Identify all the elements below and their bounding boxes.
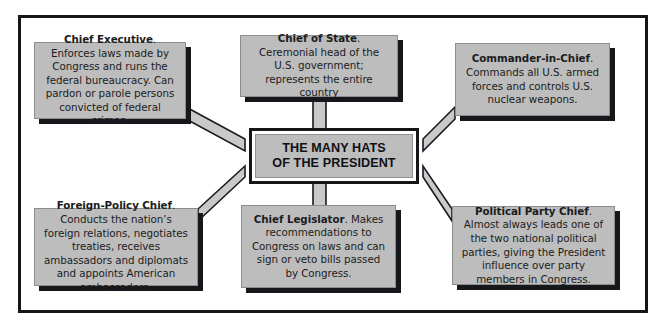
hat-box-foreign-policy-chief: Foreign-Policy Chief. Conducts the natio… <box>34 208 198 286</box>
connector-party-chief <box>423 166 452 221</box>
hat-box-text: Chief Executive. Enforces laws made by C… <box>42 33 178 128</box>
connector-chief-legislator <box>313 182 326 207</box>
hat-box-chief-of-state: Chief of State. Ceremonial head of the U… <box>240 35 398 97</box>
hat-box-text: Chief Legislator. Makes recommendations … <box>249 213 388 281</box>
center-title-box: THE MANY HATS OF THE PRESIDENT <box>249 128 419 184</box>
connector-foreign-policy <box>198 166 245 221</box>
hat-box-title: Foreign-Policy Chief <box>57 199 172 211</box>
hat-box-title: Chief of State <box>278 32 357 44</box>
connector-chief-executive <box>186 107 245 151</box>
connector-commander <box>423 107 455 151</box>
hat-box-chief-legislator: Chief Legislator. Makes recommendations … <box>241 205 396 288</box>
connector-chief-of-state <box>313 97 326 131</box>
hat-box-political-party-chief: Political Party Chief. Almost always lea… <box>452 206 615 285</box>
hat-box-title: Chief Legislator <box>254 213 345 225</box>
diagram-canvas: Chief Executive. Enforces laws made by C… <box>0 0 662 334</box>
center-title-text: THE MANY HATS OF THE PRESIDENT <box>272 141 395 172</box>
hat-box-title: Political Party Chief <box>475 205 589 217</box>
hat-box-body: . Conducts the nation’s foreign relation… <box>44 199 188 293</box>
center-title-plate: THE MANY HATS OF THE PRESIDENT <box>255 134 413 178</box>
hat-box-text: Commander-in-Chief. Commands all U.S. ar… <box>463 52 602 106</box>
hat-box-commander-in-chief: Commander-in-Chief. Commands all U.S. ar… <box>455 43 610 116</box>
hat-box-text: Political Party Chief. Almost always lea… <box>460 205 607 287</box>
hat-box-text: Foreign-Policy Chief. Conducts the natio… <box>42 199 190 294</box>
hat-box-text: Chief of State. Ceremonial head of the U… <box>248 32 390 100</box>
center-title-line-1: THE MANY HATS <box>282 141 386 155</box>
hat-box-title: Chief Executive <box>64 33 153 45</box>
hat-box-body: . Enforces laws made by Congress and run… <box>46 33 174 127</box>
hat-box-chief-executive: Chief Executive. Enforces laws made by C… <box>34 42 186 119</box>
hat-box-title: Commander-in-Chief <box>472 52 590 64</box>
center-title-line-2: OF THE PRESIDENT <box>272 156 395 170</box>
